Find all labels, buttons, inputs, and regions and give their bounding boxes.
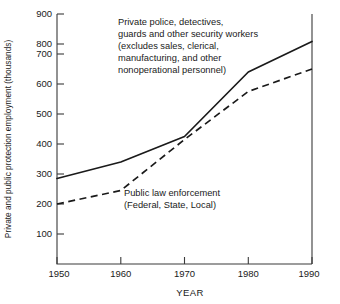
y-tick-label: 300: [36, 168, 52, 179]
annotation-line: Public law enforcement: [124, 188, 221, 198]
x-axis-tick-labels: 1950 1960 1970 1980 1990: [48, 268, 319, 279]
x-tick-label: 1990: [298, 268, 319, 279]
x-tick-label: 1950: [48, 268, 69, 279]
annotation-line: (Federal, State, Local): [124, 200, 216, 210]
x-tick-label: 1960: [110, 268, 131, 279]
annotation-line: nonoperational personnel): [118, 65, 226, 75]
y-tick-label: 100: [36, 228, 52, 239]
y-tick-label: 400: [36, 138, 52, 149]
annotation-line: (excludes sales, clerical,: [118, 41, 219, 51]
y-axis-title: Private and public protection employment…: [3, 40, 13, 239]
y-tick-label: 500: [36, 108, 52, 119]
y-tick-label: 200: [36, 198, 52, 209]
annotation-line: guards and other security workers: [118, 29, 258, 39]
x-tick-label: 1980: [238, 268, 259, 279]
y-tick-label: 900: [36, 8, 52, 19]
public-law-enforcement-annotation: Public law enforcement (Federal, State, …: [124, 188, 221, 210]
x-axis-title: YEAR: [176, 287, 203, 298]
axis-lines: [57, 14, 312, 264]
y-tick-label: 800: [36, 38, 52, 49]
private-security-annotation: Private police, detectives, guards and o…: [118, 17, 258, 75]
annotation-line: Private police, detectives,: [118, 17, 223, 27]
y-axis-ticks: [57, 14, 64, 234]
line-chart: 100 200 300 400 500 600 700 800 900 1950…: [0, 0, 340, 304]
chart-canvas: 100 200 300 400 500 600 700 800 900 1950…: [0, 0, 340, 304]
y-tick-label: 600: [36, 78, 52, 89]
annotation-line: manufacturing, and other: [118, 53, 221, 63]
y-axis-tick-labels: 100 200 300 400 500 600 700 800 900: [36, 8, 52, 239]
x-axis-ticks: [57, 257, 312, 264]
x-tick-label: 1970: [174, 268, 195, 279]
y-tick-label: 700: [36, 48, 52, 59]
